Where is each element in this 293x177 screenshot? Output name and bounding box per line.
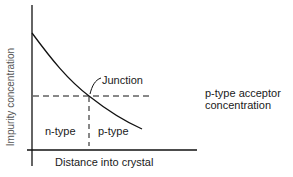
x-axis-label: Distance into crystal xyxy=(55,156,153,168)
acceptor-label-line2: concentration xyxy=(205,99,271,111)
y-axis-label: Impurity concentration xyxy=(5,48,16,146)
junction-label: Junction xyxy=(102,74,143,86)
p-type-label: p-type xyxy=(98,125,129,137)
acceptor-label-line1: p-type acceptor xyxy=(205,87,281,99)
n-type-label: n-type xyxy=(45,125,76,137)
junction-pointer xyxy=(90,78,101,94)
